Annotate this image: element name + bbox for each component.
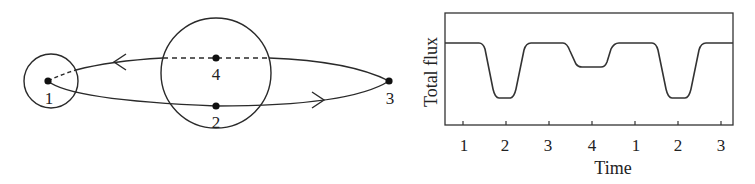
point-4-dot <box>212 54 219 61</box>
point-2-dot <box>212 102 219 109</box>
point-1-label: 1 <box>45 89 54 108</box>
flux-curve <box>445 43 733 98</box>
x-tick-label: 3 <box>544 136 553 155</box>
orbit-diagram <box>24 18 389 128</box>
orbit-upper-left <box>76 58 163 70</box>
x-tick-label: 2 <box>674 136 683 155</box>
x-tick-labels: 1 2 3 4 1 2 3 <box>460 136 726 155</box>
x-axis-label: Time <box>594 158 631 178</box>
x-tick-label: 1 <box>460 136 469 155</box>
x-tick-label: 2 <box>501 136 510 155</box>
figure: 1 2 3 4 1 2 3 4 1 2 3 Time Total flux <box>0 0 755 184</box>
orbit-labels: 1 2 3 4 <box>45 65 395 132</box>
light-curve-chart: 1 2 3 4 1 2 3 Time Total flux <box>421 13 733 178</box>
orbit-upper-right <box>269 58 389 81</box>
point-2-label: 2 <box>212 113 221 132</box>
y-axis-label: Total flux <box>421 37 441 107</box>
orbit-hidden-segment-small <box>48 70 76 81</box>
point-3-dot <box>385 77 392 84</box>
x-tick-label: 1 <box>632 136 641 155</box>
orbit-lower <box>48 81 389 106</box>
x-tick-label: 3 <box>717 136 726 155</box>
point-3-label: 3 <box>386 89 395 108</box>
x-tick-label: 4 <box>588 136 597 155</box>
point-1-dot <box>44 77 51 84</box>
point-4-label: 4 <box>212 65 221 84</box>
